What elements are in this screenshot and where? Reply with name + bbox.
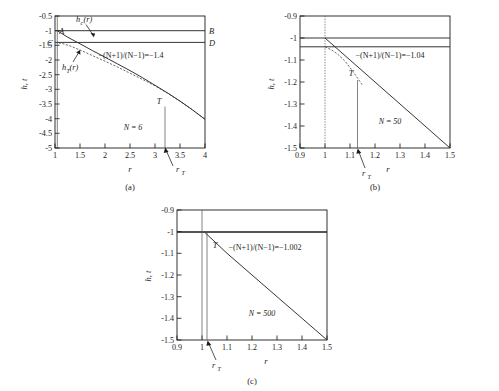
y-tick-b-3: -1.2 bbox=[284, 78, 297, 87]
panel-a-plot: -0.5 -1 -1.5 -2 -2.5 -3 -3.5 -4 -4.5 -5 bbox=[0, 0, 250, 196]
y-tick-b-4: -1.3 bbox=[284, 100, 297, 109]
x-axis-title-b: r bbox=[386, 164, 390, 174]
y-tick-b-2: -1.1 bbox=[284, 56, 297, 65]
equation-label-a: −(N+1)/(N−1)=−1.4 bbox=[99, 51, 164, 60]
y-tick-a-9: -5 bbox=[45, 144, 52, 153]
y-axis-tick-labels-a: -0.5 -1 -1.5 -2 -2.5 -3 -3.5 -4 -4.5 -5 bbox=[39, 12, 52, 153]
y-axis-ticks-c bbox=[177, 210, 182, 340]
x-tick-b-1: 1 bbox=[323, 151, 327, 160]
rT-label-a: r bbox=[176, 165, 180, 174]
panel-caption-c: (c) bbox=[247, 376, 257, 386]
y-tick-c-0: -0.9 bbox=[161, 206, 174, 215]
equation-label-c: −(N+1)/(N−1)=−1.002 bbox=[229, 243, 302, 252]
x-axis-tick-labels-a: 1 1.5 2 2.5 3 3.5 4 bbox=[53, 151, 207, 160]
curve-label-hT-a: h T (r) bbox=[62, 50, 80, 74]
x-axis-ticks-a bbox=[55, 144, 205, 149]
x-tick-b-3: 1.2 bbox=[370, 151, 380, 160]
x-tick-b-5: 1.4 bbox=[420, 151, 430, 160]
y-tick-a-7: -4 bbox=[45, 115, 52, 124]
y-tick-c-4: -1.3 bbox=[161, 293, 174, 302]
x-tick-a-6: 4 bbox=[203, 151, 207, 160]
x-tick-a-0: 1 bbox=[53, 151, 57, 160]
x-tick-a-2: 2 bbox=[103, 151, 107, 160]
figure-root: -0.5 -1 -1.5 -2 -2.5 -3 -3.5 -4 -4.5 -5 bbox=[0, 0, 499, 391]
equation-label-b: −(N+1)/(N−1)=−1.04 bbox=[356, 51, 425, 60]
x-tick-b-0: 0.9 bbox=[295, 151, 305, 160]
y-axis-ticks-b bbox=[300, 16, 305, 148]
y-axis-title-b: h, t bbox=[266, 78, 276, 90]
panel-c-plot: -0.9 -1 -1.1 -1.2 -1.3 -1.4 -1.5 0.9 1 bbox=[125, 194, 375, 391]
panel-b: -0.9 -1 -1.1 -1.2 -1.3 -1.4 -1.5 0.9 1 bbox=[250, 0, 499, 196]
y-tick-a-0: -0.5 bbox=[39, 12, 52, 21]
label-A-a: A bbox=[58, 27, 65, 36]
y-tick-c-2: -1.1 bbox=[161, 249, 174, 258]
x-tick-a-4: 3 bbox=[153, 151, 157, 160]
x-tick-c-5: 1.4 bbox=[297, 343, 307, 352]
n-label-b: N = 50 bbox=[378, 117, 402, 126]
y-tick-a-3: -2 bbox=[45, 56, 52, 65]
y-tick-c-5: -1.4 bbox=[161, 314, 174, 323]
x-tick-c-1: 1 bbox=[200, 343, 204, 352]
point-T-label-b: T bbox=[349, 69, 355, 78]
x-tick-c-4: 1.3 bbox=[272, 343, 282, 352]
y-axis-title-a: h, t bbox=[19, 78, 29, 90]
x-tick-a-3: 2.5 bbox=[125, 151, 135, 160]
rT-label-c: r bbox=[212, 361, 216, 370]
rT-leader-b bbox=[359, 151, 366, 168]
point-T-label-a: T bbox=[157, 97, 163, 106]
curve-hc-a bbox=[57, 31, 205, 120]
panel-c: -0.9 -1 -1.1 -1.2 -1.3 -1.4 -1.5 0.9 1 bbox=[125, 194, 375, 391]
x-tick-a-5: 3.5 bbox=[175, 151, 185, 160]
rT-arrowhead-c bbox=[206, 340, 211, 345]
x-axis-tick-labels-b: 0.9 1 1.1 1.2 1.3 1.4 1.5 bbox=[295, 151, 455, 160]
panel-caption-a: (a) bbox=[125, 182, 135, 192]
y-tick-a-1: -1 bbox=[45, 27, 52, 36]
n-label-c: N = 500 bbox=[248, 309, 276, 318]
y-axis-tick-labels-c: -0.9 -1 -1.1 -1.2 -1.3 -1.4 -1.5 bbox=[161, 206, 174, 345]
x-tick-b-4: 1.3 bbox=[395, 151, 405, 160]
y-tick-a-6: -3.5 bbox=[39, 100, 52, 109]
x-tick-c-0: 0.9 bbox=[172, 343, 182, 352]
label-B-a: B bbox=[209, 27, 214, 36]
rT-sub-a: T bbox=[182, 170, 186, 176]
x-tick-b-2: 1.1 bbox=[345, 151, 355, 160]
x-tick-c-2: 1.1 bbox=[222, 343, 232, 352]
y-tick-b-5: -1.4 bbox=[284, 122, 297, 131]
y-tick-b-1: -1 bbox=[290, 34, 297, 43]
rT-arrowhead-b bbox=[356, 148, 361, 153]
x-axis-ticks-b bbox=[300, 144, 450, 149]
x-axis-tick-labels-c: 0.9 1 1.1 1.2 1.3 1.4 1.5 bbox=[172, 343, 332, 352]
label-D-a: D bbox=[208, 39, 215, 48]
panel-caption-b: (b) bbox=[370, 182, 380, 192]
x-axis-title-a: r bbox=[128, 164, 132, 174]
x-axis-title-c: r bbox=[264, 356, 268, 366]
curve-hc-arg-a: (r) bbox=[84, 15, 93, 24]
x-tick-c-6: 1.5 bbox=[322, 343, 332, 352]
y-axis-title-c: h, t bbox=[143, 270, 153, 282]
y-tick-b-0: -0.9 bbox=[284, 12, 297, 21]
rT-sub-c: T bbox=[218, 366, 222, 372]
y-tick-c-1: -1 bbox=[167, 228, 174, 237]
y-tick-a-5: -3 bbox=[45, 85, 52, 94]
n-label-a: N = 6 bbox=[123, 123, 143, 132]
y-tick-c-3: -1.2 bbox=[161, 271, 174, 280]
y-tick-a-4: -2.5 bbox=[39, 71, 52, 80]
y-axis-tick-labels-b: -0.9 -1 -1.1 -1.2 -1.3 -1.4 -1.5 bbox=[284, 12, 297, 153]
curve-hT-arg-a: (r) bbox=[70, 63, 79, 72]
x-tick-a-1: 1.5 bbox=[75, 151, 85, 160]
point-T-label-c: T bbox=[213, 241, 219, 250]
y-tick-a-8: -4.5 bbox=[39, 129, 52, 138]
rT-label-b: r bbox=[362, 169, 366, 178]
curve-label-hc-a: h c (r) bbox=[76, 15, 95, 37]
rT-sub-b: T bbox=[368, 174, 372, 180]
rT-leader-c bbox=[209, 343, 217, 360]
x-tick-c-3: 1.2 bbox=[247, 343, 257, 352]
label-C-a: C bbox=[47, 39, 53, 48]
rT-leader-a bbox=[166, 150, 173, 166]
panel-b-plot: -0.9 -1 -1.1 -1.2 -1.3 -1.4 -1.5 0.9 1 bbox=[250, 0, 499, 196]
panel-a: -0.5 -1 -1.5 -2 -2.5 -3 -3.5 -4 -4.5 -5 bbox=[0, 0, 250, 196]
x-tick-b-6: 1.5 bbox=[445, 151, 455, 160]
x-axis-ticks-c bbox=[177, 336, 327, 341]
